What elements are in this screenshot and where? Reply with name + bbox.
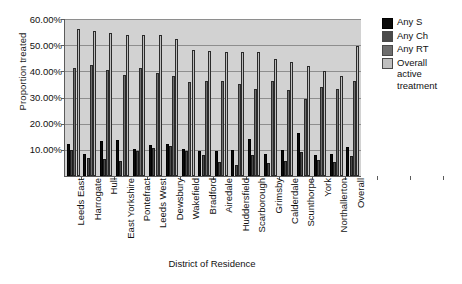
x-tick-label: Hull [109,178,119,194]
bar-chart: Proportion treated 10.00%20.00%30.00%40.… [0,0,462,284]
bar [142,35,145,176]
bar [175,39,178,176]
y-tickmark [61,45,65,46]
bar-group [295,19,311,176]
y-tickmark [61,124,65,125]
x-tick-label: Overall [356,178,366,208]
x-tick-label: Scunthorpe [306,178,316,227]
x-tick-label: Wakefield [191,178,201,219]
y-tickmark [61,19,65,20]
x-tick-label: Grimsby [274,178,284,213]
bar [159,35,162,176]
legend-swatch-icon [382,31,393,42]
legend-label: Overall active treatment [397,57,437,92]
y-tickmark [61,71,65,72]
bar [323,71,326,176]
legend-item: Any S [382,16,460,29]
bar [208,51,211,176]
y-tickmark [61,98,65,99]
bar-group [328,19,344,176]
bar-group [312,19,328,176]
y-axis-tick-labels: 10.00%20.00%30.00%40.00%50.00%60.00% [10,13,62,163]
bars-layer [65,19,361,176]
x-tick-label: Scarborough [257,178,267,232]
chart-legend: Any SAny ChAny RTOverall active treatmen… [382,16,460,92]
bar-group [246,19,262,176]
x-tick-label: Pontefract [142,178,152,221]
bar-group [262,19,278,176]
bar-group [279,19,295,176]
legend-label: Any Ch [397,30,428,42]
bar [225,52,228,176]
y-tickmark [61,150,65,151]
x-tick-label: Bradford [208,178,218,214]
bar-group [147,19,163,176]
x-axis-title: District of Residence [64,258,360,269]
x-axis-tick-labels: Leeds EastHarrogateHullEast YorkshirePon… [64,178,360,250]
bar-group [180,19,196,176]
x-tickmark [377,176,378,180]
bar-group [197,19,213,176]
bar [126,35,129,176]
bar [274,59,277,176]
bar [109,33,112,176]
x-tick-label: York [323,178,333,197]
bar-group [81,19,97,176]
plot-inner [65,19,361,176]
x-tick-label: Calderdale [290,178,300,224]
x-tick-label: Northallerton [339,178,349,232]
y-tick-label: 50.00% [10,40,62,51]
legend-label: Any RT [397,43,429,55]
bar-group [345,19,361,176]
x-tick-label: Harrogate [93,178,103,220]
x-tick-label: Airedale [224,178,234,213]
legend-swatch-icon [382,45,393,56]
x-tick-label: Leeds East [76,178,86,226]
bar-group [65,19,81,176]
legend-swatch-icon [382,58,393,69]
x-tickmark [410,176,411,180]
y-tick-label: 40.00% [10,66,62,77]
legend-label: Any S [397,16,422,28]
bar-group [164,19,180,176]
bar [356,46,359,176]
legend-swatch-icon [382,18,393,29]
bar-group [114,19,130,176]
bar [340,76,343,176]
bar-group [229,19,245,176]
bar-group [213,19,229,176]
bar [77,29,80,176]
bar [257,52,260,176]
y-tick-label: 30.00% [10,92,62,103]
x-tickmark [443,176,444,180]
bar [241,52,244,176]
y-tick-label: 60.00% [10,14,62,25]
legend-item: Any Ch [382,30,460,43]
y-tick-label: 10.00% [10,144,62,155]
plot-area [64,19,361,177]
y-tick-label: 20.00% [10,118,62,129]
bar-group [98,19,114,176]
x-tick-label: Dewsbury [175,178,185,220]
bar [307,66,310,176]
x-tick-label: East Yorkshire [126,178,136,239]
bar [93,31,96,176]
legend-item: Any RT [382,43,460,56]
legend-item: Overall active treatment [382,57,460,92]
bar [290,62,293,176]
x-tick-label: Leeds West [158,178,168,228]
x-tick-label: Huddersfield [241,178,251,231]
bar [192,50,195,176]
bar-group [131,19,147,176]
